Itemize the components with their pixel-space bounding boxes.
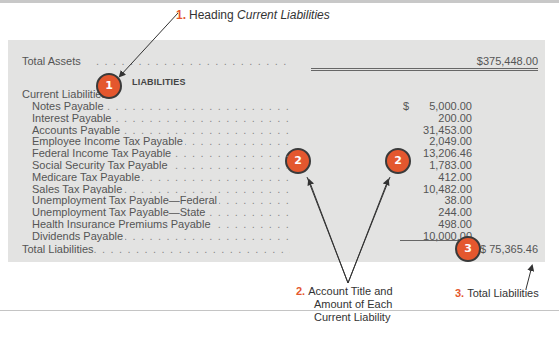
- total-assets-label: Total Assets: [22, 55, 81, 67]
- table-row: . . . . . . . . . . . . . . . . . . . . …: [0, 194, 559, 206]
- liability-amount: 200.00: [400, 112, 472, 124]
- liability-account-title: Interest Payable: [32, 112, 114, 124]
- liability-account-title: Unemployment Tax Payable—Federal: [32, 194, 219, 206]
- liability-account-title: Sales Tax Payable: [32, 183, 124, 195]
- total-liabilities-value: $ 75,365.46: [480, 243, 538, 255]
- table-row: . . . . . . . . . . . . . . . . . . . . …: [0, 218, 559, 230]
- callout-2: 2.Account Title and Amount of Each Curre…: [296, 285, 393, 324]
- double-underline-bottom: [311, 70, 538, 71]
- total-liabilities-label: Total Liabilities: [22, 243, 94, 255]
- table-row: . . . . . . . . . . . . . . . . . . . . …: [0, 112, 559, 124]
- leader-dots: . . . . . . . . . . . . . . . . . . . . …: [85, 243, 290, 256]
- liability-account-title: Social Security Tax Payable: [32, 159, 170, 171]
- callout-3-text: Total Liabilities: [467, 287, 539, 299]
- badge-3: 3: [455, 236, 481, 262]
- liability-amount: 10,482.00: [400, 183, 472, 195]
- liability-amount: 2,049.00: [400, 135, 472, 147]
- callout-2-line-3: Current Liability: [296, 311, 393, 324]
- badge-1: 1: [96, 73, 122, 99]
- double-underline-top: [311, 68, 538, 69]
- liability-amount: 244.00: [400, 206, 472, 218]
- table-row: . . . . . . . . . . . . . . . . . . . . …: [0, 171, 559, 183]
- callout-1: 1.Heading Current Liabilities: [176, 9, 330, 22]
- liability-account-title: Employee Income Tax Payable: [32, 135, 185, 147]
- liability-amount: 412.00: [400, 171, 472, 183]
- table-row: . . . . . . . . . . . . . . . . . . . . …: [0, 183, 559, 195]
- table-row: . . . . . . . . . . . . . . . . . . . . …: [0, 124, 559, 136]
- callout-1-number: 1.: [176, 8, 186, 22]
- liability-amount: 38.00: [400, 194, 472, 206]
- liability-amount: 13,206.46: [400, 147, 472, 159]
- liability-account-title: Dividends Payable: [32, 230, 125, 242]
- table-row: . . . . . . . . . . . . . . . . . . . . …: [0, 135, 559, 147]
- liability-account-title: Unemployment Tax Payable—State: [32, 206, 207, 218]
- liability-amount: 498.00: [400, 218, 472, 230]
- badge-2-amount: 2: [385, 148, 411, 174]
- table-row: . . . . . . . . . . . . . . . . . . . . …: [0, 159, 559, 171]
- liability-account-title: Accounts Payable: [32, 124, 122, 136]
- callout-3-number: 3.: [455, 287, 464, 299]
- liability-amount: 31,453.00: [400, 124, 472, 136]
- leader-dots: . . . . . . . . . . . . . . . . . . . . …: [96, 55, 286, 68]
- table-row: . . . . . . . . . . . . . . . . . . . . …: [0, 206, 559, 218]
- liability-amount: 5,000.00: [400, 100, 472, 112]
- top-border: [0, 0, 559, 3]
- liability-account-title: Medicare Tax Payable: [32, 171, 142, 183]
- callout-3: 3.Total Liabilities: [455, 287, 539, 300]
- section-heading: LIABILITIES: [132, 77, 186, 87]
- table-row: . . . . . . . . . . . . . . . . . . . . …: [0, 100, 559, 112]
- liability-account-title: Health Insurance Premiums Payable: [32, 218, 213, 230]
- total-assets-value: $375,448.00: [420, 55, 538, 67]
- callout-1-text: Heading: [189, 8, 237, 22]
- callout-2-number: 2.: [296, 285, 305, 297]
- bottom-border: [0, 310, 559, 311]
- liability-account-title: Federal Income Tax Payable: [32, 147, 173, 159]
- callout-2-line-1: Account Title and: [308, 285, 392, 297]
- table-row: . . . . . . . . . . . . . . . . . . . . …: [0, 147, 559, 159]
- liability-account-title: Notes Payable: [32, 100, 106, 112]
- callout-1-italic: Current Liabilities: [237, 8, 330, 22]
